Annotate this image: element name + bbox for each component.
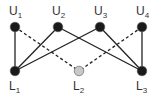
label-u1: U1 — [9, 4, 23, 20]
label-u3: U3 — [94, 4, 108, 20]
bipartite-graph-diagram: U1U2U3U4L1L2L3 — [0, 0, 154, 96]
node-u2 — [53, 22, 63, 32]
label-l1: L1 — [9, 79, 21, 95]
label-u2: U2 — [52, 4, 66, 20]
label-l3: L3 — [136, 79, 148, 95]
node-l2 — [74, 66, 84, 76]
edge-u3-l1 — [15, 27, 100, 71]
label-u4: U4 — [136, 4, 150, 20]
edges-group — [15, 27, 142, 71]
node-u1 — [10, 22, 20, 32]
nodes-group — [10, 22, 147, 76]
edge-u2-l1 — [15, 27, 58, 71]
node-u4 — [137, 22, 147, 32]
node-l1 — [10, 66, 20, 76]
edge-u3-l3 — [100, 27, 142, 71]
edge-u2-l3 — [58, 27, 142, 71]
labels-group: U1U2U3U4L1L2L3 — [9, 4, 150, 95]
node-u3 — [95, 22, 105, 32]
node-l3 — [137, 66, 147, 76]
label-l2: L2 — [73, 79, 85, 95]
graph-canvas: U1U2U3U4L1L2L3 — [0, 0, 154, 96]
